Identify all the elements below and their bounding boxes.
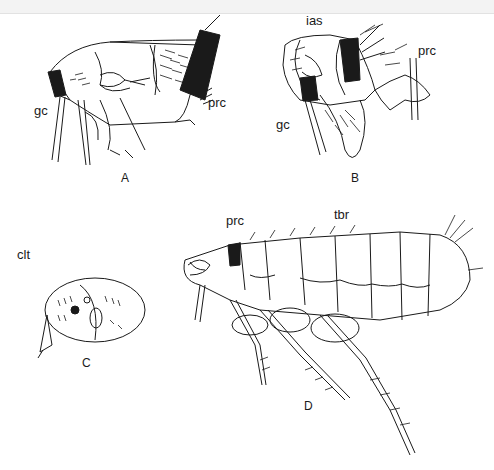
label-b-prc: prc (418, 44, 436, 57)
panel-d-drawing (184, 215, 483, 455)
panel-label-d: D (304, 400, 313, 412)
label-d-prc: prc (226, 214, 244, 227)
panel-label-b: B (351, 172, 359, 184)
panel-b-drawing (283, 24, 430, 158)
flea-anatomy-illustration (0, 0, 494, 470)
panel-label-a: A (121, 172, 129, 184)
panel-a-drawing (48, 15, 220, 165)
label-b-gc: gc (276, 118, 290, 131)
label-b-ias: ias (306, 14, 323, 27)
label-c-clt: clt (17, 248, 30, 261)
label-a-prc: prc (208, 96, 226, 109)
label-a-gc: gc (34, 104, 48, 117)
panel-c-drawing (38, 278, 145, 358)
panel-label-c: C (82, 357, 91, 369)
label-d-tbr: tbr (334, 208, 349, 221)
